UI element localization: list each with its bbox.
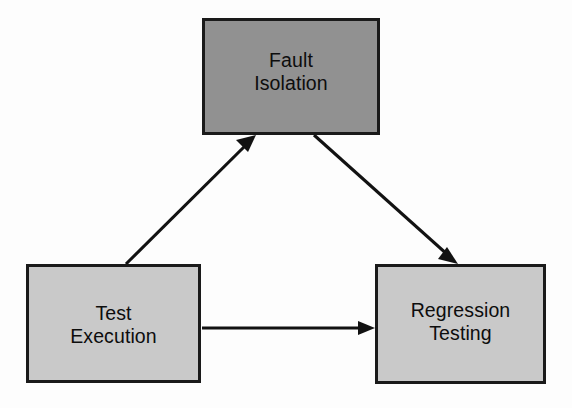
node-fault-isolation[interactable]: Fault Isolation	[202, 18, 380, 135]
node-regression-testing-label-line2: Testing	[429, 322, 492, 345]
edge-test-execution-to-fault-isolation	[126, 135, 256, 264]
node-test-execution-label-line1: Test	[95, 302, 131, 325]
node-regression-testing-label-line1: Regression	[411, 299, 511, 322]
edge-fault-isolation-to-regression-testing	[314, 135, 458, 264]
node-test-execution[interactable]: Test Execution	[26, 264, 201, 383]
edge-test-execution-to-regression-testing	[202, 321, 375, 335]
diagram-canvas: Fault Isolation Test Execution Regressio…	[0, 0, 572, 408]
node-test-execution-label-line2: Execution	[70, 325, 157, 348]
node-fault-isolation-label-line1: Fault	[269, 49, 313, 72]
node-fault-isolation-label-line2: Isolation	[254, 72, 328, 95]
node-regression-testing[interactable]: Regression Testing	[375, 264, 546, 384]
